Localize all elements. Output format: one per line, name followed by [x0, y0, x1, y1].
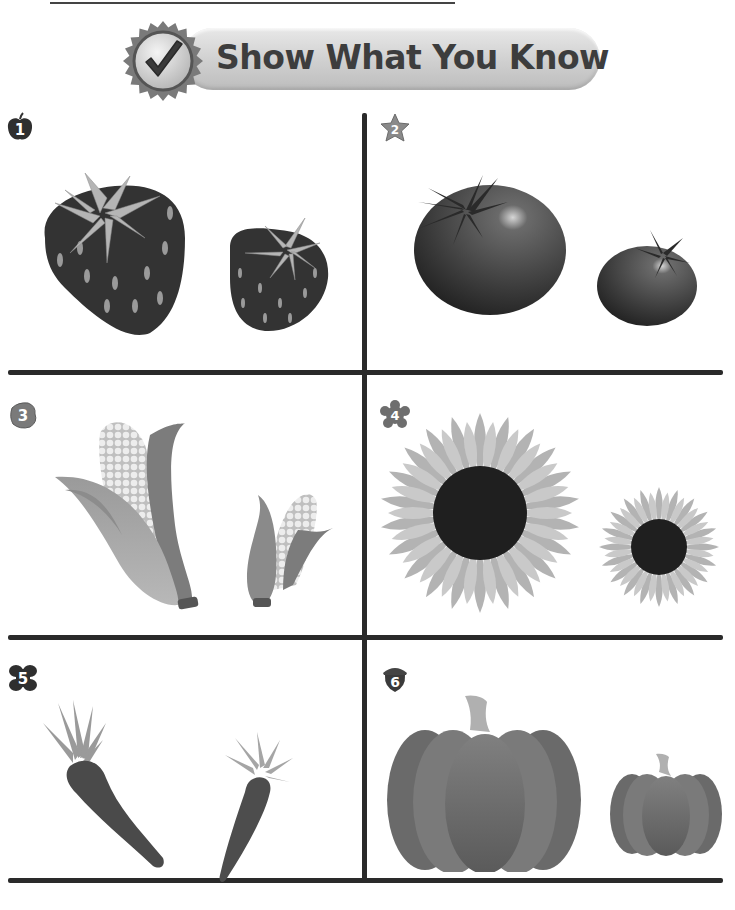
flower-center [433, 466, 527, 560]
star-number-badge-icon: 2 [380, 113, 410, 143]
small-carrot [215, 730, 300, 885]
grid-divider-row-1 [8, 370, 723, 375]
big-sunflower [378, 408, 583, 618]
small-tomato [595, 228, 705, 328]
page-title: Show What You Know [216, 38, 609, 77]
small-strawberry [225, 218, 333, 336]
small-corn [238, 480, 333, 610]
big-tomato [408, 170, 568, 318]
petal [655, 487, 662, 525]
item-number: 3 [18, 407, 28, 425]
grid-divider-row-3 [8, 878, 723, 883]
acorn-number-badge-icon: 6 [380, 663, 410, 693]
small-pumpkin [607, 752, 725, 857]
item-number: 6 [390, 674, 400, 690]
top-rule [50, 2, 455, 4]
big-carrot [38, 698, 173, 873]
big-pumpkin [385, 692, 583, 872]
petal [655, 569, 662, 607]
grid-divider-row-2 [8, 635, 723, 640]
apple-number-badge-icon: 1 [5, 112, 35, 142]
butterfly-number-badge-icon: 5 [8, 663, 38, 693]
title-banner: Show What You Know [122, 20, 602, 102]
petal [599, 543, 637, 550]
big-strawberry [35, 168, 190, 340]
petal [681, 543, 719, 550]
small-sunflower [598, 485, 720, 609]
checkmark-icon [122, 20, 204, 102]
big-corn [50, 415, 215, 610]
item-number: 1 [15, 121, 25, 139]
grid-divider-vertical [362, 113, 367, 883]
item-number: 2 [391, 123, 399, 137]
flower-center [631, 519, 687, 575]
item-number: 5 [18, 670, 28, 688]
leaf-number-badge-icon: 3 [8, 400, 38, 430]
